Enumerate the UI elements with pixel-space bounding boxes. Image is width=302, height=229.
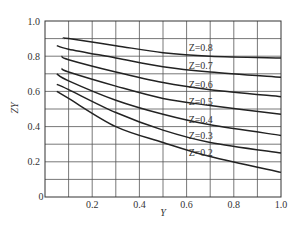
x-tick-label: 1.0: [275, 199, 288, 210]
y-tick-label: 0.6: [28, 86, 41, 97]
y-tick-label: 0.2: [28, 156, 41, 167]
x-tick-label: 0.2: [86, 199, 99, 210]
curve-label: Z=0.5: [189, 96, 213, 107]
curve-label: Z=0.3: [189, 130, 213, 141]
y-tick-label: 1.0: [28, 16, 41, 27]
curve-Z=0.6: [62, 56, 281, 96]
x-axis-label: Y: [160, 207, 167, 218]
curves: [57, 38, 281, 172]
curve-label: Z=0.7: [189, 60, 213, 71]
curve-labels: Z=0.8Z=0.7Z=0.6Z=0.5Z=0.4Z=0.3Z=0.2: [189, 42, 213, 158]
curve-Z=0.3: [57, 84, 281, 153]
y-tick-label: 0.4: [28, 121, 41, 132]
x-tick-label: 0.6: [180, 199, 193, 210]
origin-label: 0: [39, 191, 44, 202]
curve-label: Z=0.2: [189, 147, 213, 158]
curve-Z=0.7: [57, 46, 281, 78]
y-axis-label: ZY: [9, 101, 20, 114]
grid-lines: [45, 21, 281, 197]
curve-label: Z=0.8: [189, 42, 213, 53]
x-tick-label: 0.4: [133, 199, 146, 210]
chart: Z=0.8Z=0.7Z=0.6Z=0.5Z=0.4Z=0.3Z=0.2 0.20…: [0, 0, 302, 229]
curve-label: Z=0.4: [189, 114, 213, 125]
curve-label: Z=0.6: [189, 79, 213, 90]
x-tick-label: 0.8: [228, 199, 241, 210]
y-tick-label: 0.8: [28, 51, 41, 62]
